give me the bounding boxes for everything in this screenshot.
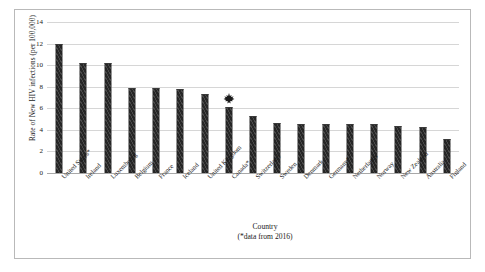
bar (104, 63, 111, 173)
x-axis-title-main: Country (165, 222, 365, 232)
x-tick-slot: United Kingdom (192, 175, 216, 221)
x-tick-slot: Sweden (265, 175, 289, 221)
bar (177, 89, 184, 173)
y-axis-tick-label: 8 (40, 83, 44, 91)
chart-figure: Rate of New HIV infections (per 100,000)… (14, 9, 471, 259)
x-axis-tick-labels: United States*IrelandLuxembourgBelgiumFr… (47, 175, 459, 221)
bar-item (144, 22, 168, 173)
x-tick-slot: Finland (435, 175, 459, 221)
x-tick-slot: France (144, 175, 168, 221)
bar-item (338, 22, 362, 173)
bar-series (47, 22, 459, 173)
bar (201, 94, 208, 173)
bar (249, 116, 256, 173)
y-axis-tick-label: 14 (36, 18, 43, 26)
y-axis-tick-label: 6 (40, 104, 44, 112)
x-tick-slot: Australia (411, 175, 435, 221)
x-tick-slot: Canada* (217, 175, 241, 221)
bar (395, 126, 402, 173)
x-tick-slot: Iceland (168, 175, 192, 221)
x-tick-slot: Luxembourg (95, 175, 119, 221)
bar (153, 88, 160, 173)
bar-item (192, 22, 216, 173)
bar-item (362, 22, 386, 173)
bar (371, 124, 378, 173)
bar-item (168, 22, 192, 173)
x-tick-slot: Netherlands (338, 175, 362, 221)
bar-item (386, 22, 410, 173)
bar (322, 124, 329, 173)
x-tick-slot: Ireland (71, 175, 95, 221)
y-axis-tick-label: 10 (36, 61, 43, 69)
x-tick-slot: Denmark (289, 175, 313, 221)
y-axis-tick-label: 0 (40, 169, 44, 177)
x-tick-slot: Belgium (120, 175, 144, 221)
bar-item (47, 22, 71, 173)
bar (274, 123, 281, 173)
bar-item (314, 22, 338, 173)
y-axis-tick-label: 2 (40, 147, 44, 155)
x-tick-slot: Norway (362, 175, 386, 221)
bar (298, 124, 305, 173)
plot-area: 02468101214 (47, 22, 459, 173)
x-tick-slot: United States* (47, 175, 71, 221)
bar-item (95, 22, 119, 173)
bar (56, 44, 63, 173)
bar-item (241, 22, 265, 173)
y-axis-tick-label: 4 (40, 126, 44, 134)
x-tick-slot: Germany* (314, 175, 338, 221)
bar-item (435, 22, 459, 173)
bar-item (265, 22, 289, 173)
bar-item (289, 22, 313, 173)
x-tick-slot: Switzerland (241, 175, 265, 221)
x-axis-title-note: (*data from 2016) (165, 232, 365, 242)
bar (443, 139, 450, 174)
x-tick-slot: New Zealand (386, 175, 410, 221)
y-axis-tick-label: 12 (36, 40, 43, 48)
maple-leaf-icon (222, 91, 235, 104)
x-axis-title: Country (*data from 2016) (165, 222, 365, 242)
bar (346, 124, 353, 173)
